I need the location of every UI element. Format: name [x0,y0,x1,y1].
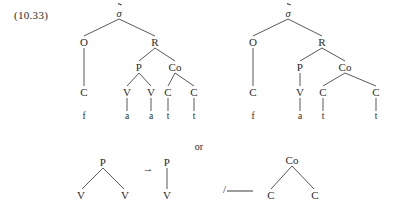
left-tree-node-coda: Co [168,62,181,73]
right-tree-node-peak-seg: a [298,112,302,122]
right-tree-node-rhyme: R [318,37,326,48]
left-tree-node-peak: P [136,62,142,73]
right-tree-node-coda-seg2: t [375,112,378,122]
left-tree-node-onset-c: C [80,87,88,98]
left-tree-node-coda-seg2: t [193,112,196,122]
right-tree-node-onset-seg: f [251,112,254,122]
left-tree-node-coda-c2: C [190,87,198,98]
tree-branch [155,48,175,61]
right-tree-node-coda-c1: C [319,87,327,98]
environment-slash: / [223,183,226,195]
rule-environment-slot: / [223,184,253,195]
tree-branch [82,168,103,189]
left-tree-node-peak-seg1: a [125,112,129,122]
tree-branch [253,19,288,36]
rule-context-node-c1: C [267,190,275,201]
rule-arrow-icon: → [143,163,154,174]
right-tree-node-coda-seg1: t [322,112,325,122]
left-tree-node-peak-v2: V [147,87,155,98]
left-tree-node-coda-c1: C [164,87,172,98]
tree-branch [84,19,119,36]
rule-output-node-p: P [164,157,170,168]
tree-branch [345,73,376,86]
right-tree-node-peak: P [297,62,303,73]
tree-branch [103,168,124,189]
tree-branch [271,166,292,189]
rule-context-node-c2: C [311,190,319,201]
tree-branch [119,19,155,36]
right-tree-node-onset: O [249,37,257,48]
edges-right-tree [253,19,376,111]
tree-branch [127,73,139,86]
edges-rule-context [271,166,314,189]
tree-branch [288,19,322,36]
tree-branch [323,73,345,86]
left-tree-node-onset-seg: f [82,112,85,122]
rule-input-node-v1: V [77,190,85,201]
right-tree-node-coda-c2: C [372,87,380,98]
right-tree-node-coda: Co [338,62,351,73]
left-tree-node-onset: O [80,37,88,48]
rule-input-node-p: P [100,157,106,168]
right-tree-node-onset-c: C [249,87,257,98]
tree-edges-layer [0,0,398,218]
tree-branch [292,166,314,189]
right-tree-node-peak-v: V [296,87,304,98]
rule-input-node-v2: V [121,190,129,201]
left-tree-node-peak-v1: V [123,87,131,98]
tree-branch [322,48,345,61]
rule-output-node-v: V [163,190,171,201]
tree-branch [175,73,194,86]
left-tree-node-sigma: σ [116,9,121,20]
left-tree-node-coda-seg1: t [167,112,170,122]
rule-context-node-coda: Co [285,155,298,166]
left-tree-node-rhyme: R [151,37,159,48]
left-tree-node-peak-seg2: a [149,112,153,122]
edges-rule-input [82,168,124,189]
conjunction-or: or [195,141,203,152]
tree-branch [300,48,322,61]
tree-branch [139,73,151,86]
tree-branch [139,48,155,61]
tree-branch [168,73,175,86]
environment-blank [227,191,253,192]
figure-root: (10.33) σORCfPCoVVaaCCtt σORCfPCoVaCCtt … [0,0,398,218]
right-tree-node-sigma: σ [285,9,290,20]
